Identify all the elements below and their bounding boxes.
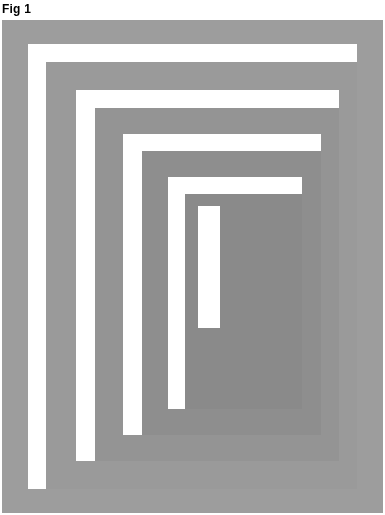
figure-plate [2, 20, 383, 513]
figure-page: Fig 1 [0, 0, 385, 515]
ring-10-white [198, 206, 220, 328]
figure-label: Fig 1 [2, 1, 31, 17]
